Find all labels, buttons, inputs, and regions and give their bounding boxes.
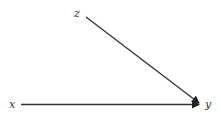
node-z-label: z [73,7,80,20]
node-x-label: x [9,98,16,111]
causal-diagram: z x y [0,0,221,113]
node-y-label: y [204,98,212,111]
edge-z-to-y-arrow [86,17,199,103]
